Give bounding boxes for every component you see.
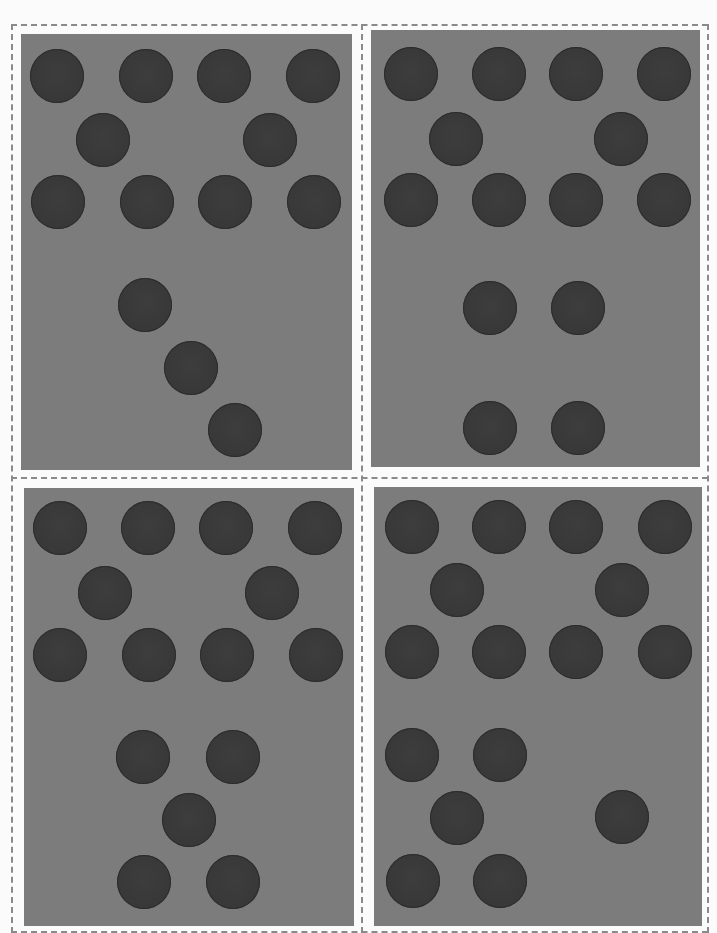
dot-circle-icon — [384, 173, 438, 227]
dot-circle-icon — [430, 563, 484, 617]
dot-circle-icon — [121, 501, 175, 555]
dot-circle-icon — [385, 625, 439, 679]
card-bottom-right — [374, 487, 702, 926]
dot-circle-icon — [595, 790, 649, 844]
dot-circle-icon — [549, 47, 603, 101]
dot-circle-icon — [286, 49, 340, 103]
dot-circle-icon — [78, 566, 132, 620]
cut-line-horizontal — [11, 477, 708, 479]
dot-circle-icon — [117, 855, 171, 909]
dot-circle-icon — [472, 625, 526, 679]
dot-circle-icon — [472, 47, 526, 101]
dot-circle-icon — [637, 47, 691, 101]
dot-circle-icon — [197, 49, 251, 103]
dot-circle-icon — [384, 47, 438, 101]
dot-circle-icon — [472, 500, 526, 554]
card-top-right — [371, 30, 700, 467]
dot-circle-icon — [76, 113, 130, 167]
dot-circle-icon — [473, 854, 527, 908]
dot-circle-icon — [206, 730, 260, 784]
dot-circle-icon — [31, 175, 85, 229]
dot-circle-icon — [30, 49, 84, 103]
dot-circle-icon — [638, 625, 692, 679]
dot-circle-icon — [430, 791, 484, 845]
dot-circle-icon — [638, 500, 692, 554]
cut-line-vertical — [11, 24, 13, 933]
dot-circle-icon — [287, 175, 341, 229]
dot-circle-icon — [243, 113, 297, 167]
dot-circle-icon — [208, 403, 262, 457]
dot-circle-icon — [288, 501, 342, 555]
dot-circle-icon — [245, 566, 299, 620]
card-bottom-left — [24, 488, 354, 926]
dot-circle-icon — [549, 500, 603, 554]
dot-circle-icon — [120, 175, 174, 229]
dot-circle-icon — [594, 112, 648, 166]
dot-circle-icon — [472, 173, 526, 227]
card-top-left — [21, 34, 352, 470]
dot-circle-icon — [200, 628, 254, 682]
dot-circle-icon — [206, 855, 260, 909]
dot-circle-icon — [595, 563, 649, 617]
dot-circle-icon — [33, 628, 87, 682]
dot-circle-icon — [473, 728, 527, 782]
dot-circle-icon — [199, 501, 253, 555]
dot-circle-icon — [198, 175, 252, 229]
dot-circle-icon — [116, 730, 170, 784]
dot-circle-icon — [463, 281, 517, 335]
dot-circle-icon — [118, 278, 172, 332]
dot-circle-icon — [386, 854, 440, 908]
cut-line-vertical — [707, 24, 709, 933]
dot-circle-icon — [551, 401, 605, 455]
dot-circle-icon — [637, 173, 691, 227]
dot-circle-icon — [385, 728, 439, 782]
dot-circle-icon — [119, 49, 173, 103]
dot-circle-icon — [162, 793, 216, 847]
dot-circle-icon — [463, 401, 517, 455]
dot-circle-icon — [549, 625, 603, 679]
cut-line-horizontal — [11, 24, 708, 26]
dot-circle-icon — [289, 628, 343, 682]
dot-circle-icon — [429, 112, 483, 166]
cut-line-vertical — [361, 24, 363, 933]
dot-circle-icon — [385, 500, 439, 554]
dot-circle-icon — [549, 173, 603, 227]
dot-circle-icon — [551, 281, 605, 335]
dot-circle-icon — [164, 341, 218, 395]
dot-circle-icon — [122, 628, 176, 682]
dot-circle-icon — [33, 501, 87, 555]
